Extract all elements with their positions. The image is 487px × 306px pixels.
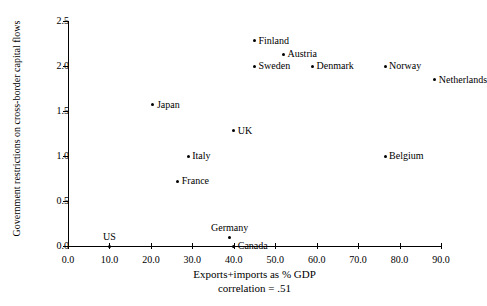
x-tick-mark bbox=[441, 243, 442, 249]
x-tick-label: 80.0 bbox=[380, 254, 420, 265]
x-tick-label: 40.0 bbox=[214, 254, 254, 265]
x-axis-title: Exports+imports as % GDP bbox=[68, 268, 441, 280]
data-point-marker bbox=[384, 155, 387, 158]
x-tick-label: 50.0 bbox=[255, 254, 295, 265]
data-point-marker bbox=[187, 155, 190, 158]
data-point-marker bbox=[108, 245, 111, 248]
data-point-label: US bbox=[103, 232, 116, 242]
data-point-label: Finland bbox=[259, 36, 290, 46]
data-point-marker bbox=[228, 236, 231, 239]
x-tick-label: 10.0 bbox=[89, 254, 129, 265]
data-point-marker bbox=[282, 53, 285, 56]
y-tick-label: 0.5 bbox=[43, 196, 69, 206]
x-tick-label: 30.0 bbox=[172, 254, 212, 265]
data-point-label: Germany bbox=[211, 223, 248, 233]
data-point-label: Canada bbox=[238, 241, 268, 251]
data-point-marker bbox=[384, 65, 387, 68]
correlation-annotation: correlation = .51 bbox=[68, 282, 441, 294]
data-point-marker bbox=[433, 78, 436, 81]
data-point-label: Italy bbox=[192, 151, 210, 161]
data-point-label: Belgium bbox=[389, 151, 423, 161]
y-axis-line bbox=[68, 21, 69, 247]
y-tick-label: 1.5 bbox=[43, 106, 69, 116]
x-tick-mark bbox=[275, 243, 276, 249]
y-tick-label: 2.5 bbox=[43, 16, 69, 26]
x-tick-label: 0.0 bbox=[48, 254, 88, 265]
data-point-label: Norway bbox=[389, 61, 421, 71]
data-point-marker bbox=[232, 245, 235, 248]
y-tick-label: 2.0 bbox=[43, 61, 69, 71]
data-point-marker bbox=[176, 180, 179, 183]
y-tick-label: 0.0 bbox=[43, 241, 69, 251]
x-tick-label: 90.0 bbox=[421, 254, 461, 265]
x-tick-mark bbox=[192, 243, 193, 249]
x-tick-label: 60.0 bbox=[297, 254, 337, 265]
data-point-marker bbox=[232, 129, 235, 132]
data-point-label: Austria bbox=[288, 49, 317, 59]
x-tick-label: 70.0 bbox=[338, 254, 378, 265]
data-point-marker bbox=[253, 39, 256, 42]
data-point-label: Japan bbox=[157, 100, 180, 110]
data-point-label: UK bbox=[238, 126, 252, 136]
x-tick-mark bbox=[358, 243, 359, 249]
x-tick-mark bbox=[151, 243, 152, 249]
x-tick-label: 20.0 bbox=[131, 254, 171, 265]
data-point-marker bbox=[253, 65, 256, 68]
y-tick-label: 1.0 bbox=[43, 151, 69, 161]
x-tick-mark bbox=[317, 243, 318, 249]
data-point-label: Sweden bbox=[259, 61, 291, 71]
data-point-marker bbox=[311, 65, 314, 68]
x-tick-mark bbox=[68, 243, 69, 249]
data-point-marker bbox=[151, 103, 154, 106]
y-axis-title: Government restrictions on cross-border … bbox=[11, 9, 22, 249]
data-point-label: Netherlands bbox=[439, 75, 487, 85]
data-point-label: Denmark bbox=[317, 61, 354, 71]
x-tick-mark bbox=[400, 243, 401, 249]
data-point-label: France bbox=[182, 176, 209, 186]
